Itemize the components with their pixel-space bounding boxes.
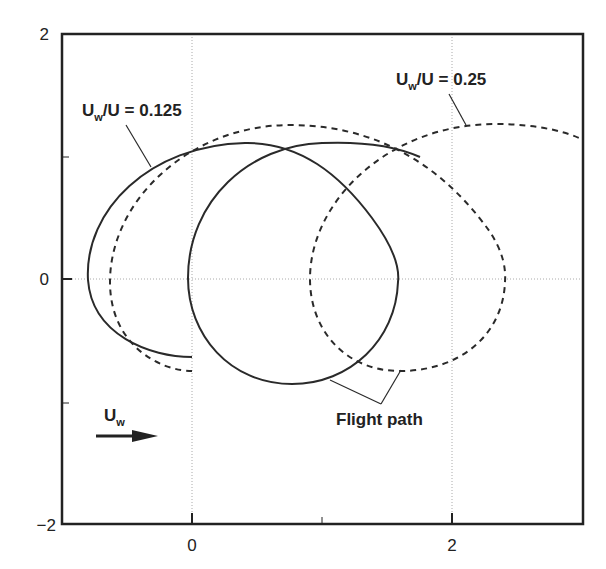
series-dashed-025 [110,124,583,371]
label-wind: Uw [104,406,125,428]
label-flight-path: Flight path [336,410,423,429]
leader-flight-path-dashed [381,370,401,404]
chart-svg: 2 0 −2 0 2 Uw/U = 0.125 Uw/U = 0.25 Flig… [0,0,606,569]
y-tick-2: 2 [40,25,49,44]
label-series-025: Uw/U = 0.25 [396,70,486,92]
x-tick-2: 2 [447,536,456,555]
wind-arrow-icon [132,430,158,442]
leader-flight-path-solid [330,380,381,404]
label-series-0125: Uw/U = 0.125 [82,101,182,123]
ticks [62,157,452,524]
leader-series-0125 [126,125,151,167]
y-tick-0: 0 [40,270,49,289]
x-tick-0: 0 [187,536,196,555]
y-tick-neg2: −2 [37,516,56,535]
